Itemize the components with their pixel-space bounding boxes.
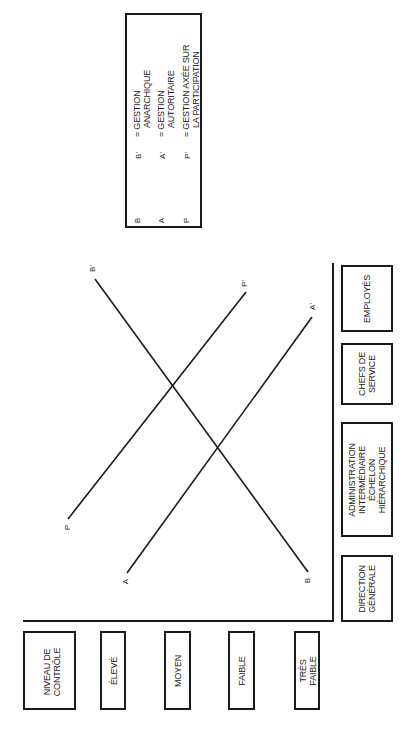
legend-text-participation: = GESTION AXÉE SUR LA PARTICIPATION	[181, 45, 201, 137]
x-cat-administration: ADMINISTRATIONINTERMÉDIAIRE ÉCHELONHIÉRA…	[347, 423, 387, 537]
legend-b-start-label: B	[133, 218, 142, 223]
legend-a-start-label: A	[157, 218, 166, 223]
y-level-eleve-box: ÉLEVÉ	[100, 631, 126, 710]
line-p-start-label: P	[63, 525, 72, 530]
line-b-end-label: B'	[88, 265, 97, 272]
line-p-end-label: P'	[240, 280, 249, 287]
y-level-eleve: ÉLEVÉ	[109, 632, 119, 711]
x-cat-employes-box: EMPLOYÉS	[341, 265, 393, 332]
x-cat-direction-box: DIRECTIONGÉNÉRALE	[341, 555, 393, 622]
y-level-tres-faible: TRÈSFAIBLE	[298, 632, 318, 711]
line-b-anarchique	[95, 279, 308, 572]
line-a-start-label: A	[121, 579, 130, 584]
x-cat-direction: DIRECTIONGÉNÉRALE	[357, 557, 377, 621]
legend-text-autoritaire: = GESTION AUTORITAIRE	[156, 71, 176, 137]
legend-p-start-label: P	[182, 218, 191, 223]
x-cat-chefs-de-service: CHEFS DESERVICE	[357, 344, 377, 404]
y-level-tres-faible-box: TRÈSFAIBLE	[294, 631, 320, 710]
y-level-faible: FAIBLE	[237, 632, 247, 711]
legend-b-end-label: B'	[134, 152, 143, 159]
x-cat-employes: EMPLOYÉS	[362, 267, 372, 331]
line-a-end-label: A'	[308, 303, 317, 310]
line-b-start-label: B	[303, 578, 312, 583]
line-p-participation	[68, 292, 246, 519]
y-level-faible-box: FAIBLE	[228, 631, 255, 710]
y-axis-title: NIVEAU DECONTRÔLE	[42, 633, 62, 712]
x-cat-chefs-box: CHEFS DESERVICE	[341, 343, 393, 405]
y-level-moyen-box: MOYEN	[164, 631, 191, 710]
y-axis-title-box: NIVEAU DECONTRÔLE	[23, 631, 76, 710]
line-a-autoritaire	[127, 317, 312, 573]
y-level-moyen: MOYEN	[173, 632, 183, 711]
legend-a-end-label: A'	[158, 152, 167, 159]
legend-text-anarchique: = GESTION ANARCHIQUE	[132, 70, 152, 137]
x-cat-administration-box: ADMINISTRATIONINTERMÉDIAIRE ÉCHELONHIÉRA…	[341, 422, 393, 537]
legend-p-end-label: P'	[183, 152, 192, 159]
